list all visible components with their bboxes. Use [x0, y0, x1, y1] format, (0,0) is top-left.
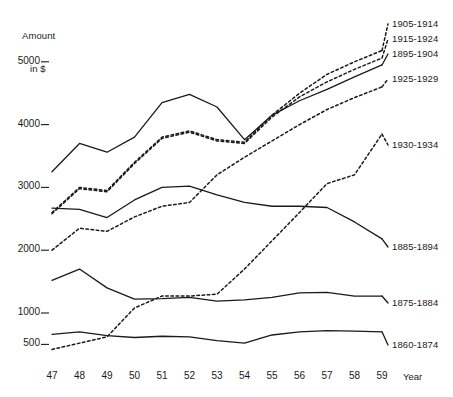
x-tick-label: 47 — [38, 370, 66, 381]
series-label: 1930-1934 — [392, 139, 438, 150]
y-tick-label: 5000 — [0, 55, 40, 66]
series-leader-line — [382, 332, 388, 345]
x-tick-label: 53 — [203, 370, 231, 381]
series-label: 1895-1904 — [392, 48, 438, 59]
series-line — [52, 58, 382, 214]
x-tick-label: 51 — [148, 370, 176, 381]
series-label: 1875-1884 — [392, 297, 438, 308]
series-line — [52, 65, 382, 172]
x-tick-label: 57 — [313, 370, 341, 381]
series-line — [52, 51, 382, 213]
series-leader-line — [382, 79, 388, 87]
series-line — [52, 269, 382, 301]
series-leader-line — [382, 134, 388, 145]
x-tick-label: 55 — [258, 370, 286, 381]
y-tick-label: 500 — [0, 337, 40, 348]
plot-area — [0, 0, 453, 397]
line-chart: Amount in $ Year 50010002000300040005000… — [0, 0, 453, 397]
series-label: 1885-1894 — [392, 241, 438, 252]
series-line — [52, 87, 382, 250]
series-line — [52, 331, 382, 344]
x-tick-label: 58 — [341, 370, 369, 381]
series-leader-line — [382, 239, 388, 247]
x-tick-label: 49 — [93, 370, 121, 381]
y-tick-label: 2000 — [0, 243, 40, 254]
x-tick-label: 50 — [121, 370, 149, 381]
y-tick-label: 3000 — [0, 180, 40, 191]
y-tick-label: 4000 — [0, 118, 40, 129]
series-label: 1925-1929 — [392, 73, 438, 84]
y-tick-label: 1000 — [0, 306, 40, 317]
x-tick-label: 56 — [286, 370, 314, 381]
series-label: 1905-1914 — [392, 18, 438, 29]
series-label: 1860-1874 — [392, 339, 438, 350]
series-leader-line — [382, 296, 388, 303]
x-tick-label: 52 — [176, 370, 204, 381]
x-tick-label: 54 — [231, 370, 259, 381]
series-line — [52, 134, 382, 349]
x-tick-label: 48 — [66, 370, 94, 381]
series-label: 1915-1924 — [392, 33, 438, 44]
x-tick-label: 59 — [368, 370, 396, 381]
